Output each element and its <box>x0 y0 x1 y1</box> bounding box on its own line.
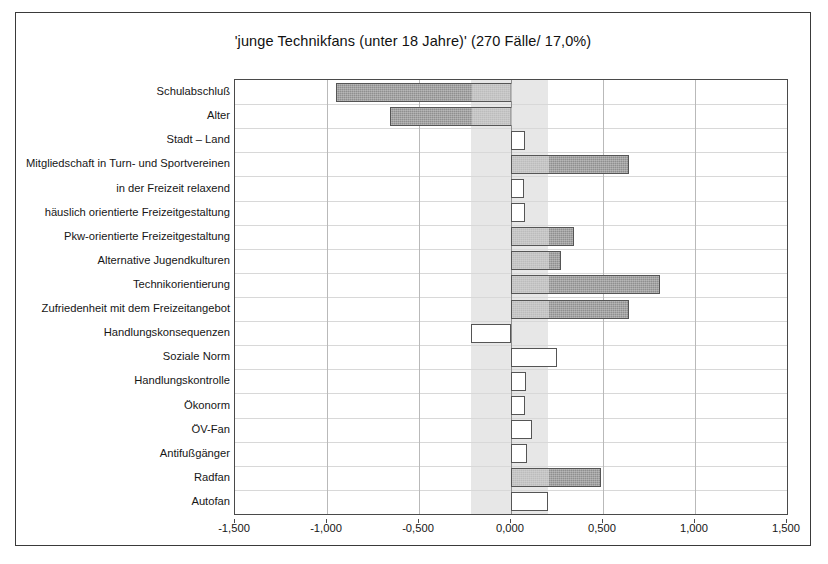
y-axis-tick-label: Stadt – Land <box>20 133 230 145</box>
x-axis-tick-label: -1,500 <box>218 522 250 534</box>
y-axis-tick-label: ÖV-Fan <box>20 423 230 435</box>
y-axis-tick-label: Handlungskontrolle <box>20 374 230 386</box>
y-axis-tick-label: Soziale Norm <box>20 350 230 362</box>
y-axis-tick-label: Alternative Jugendkulturen <box>20 254 230 266</box>
bar-band-overlay <box>512 228 549 245</box>
y-axis-tick-label: in der Freizeit relaxend <box>20 182 230 194</box>
bar <box>511 396 525 415</box>
gridline-vertical <box>603 80 604 514</box>
bar-band-overlay <box>512 301 549 318</box>
gridline-vertical <box>419 80 420 514</box>
y-axis-tick-label: Pkw-orientierte Freizeitgestaltung <box>20 230 230 242</box>
bar <box>511 468 601 487</box>
chart-title: 'junge Technikfans (unter 18 Jahre)' (27… <box>16 33 810 49</box>
bar-band-overlay <box>512 469 549 486</box>
bar <box>511 203 525 222</box>
bar <box>511 179 524 198</box>
bar <box>390 107 511 126</box>
y-axis-tick-label: Technikorientierung <box>20 278 230 290</box>
chart-figure: 'junge Technikfans (unter 18 Jahre)' (27… <box>15 12 811 546</box>
bar <box>471 324 511 343</box>
y-axis-tick-label: Autofan <box>20 495 230 507</box>
x-axis-tick-label: -0,500 <box>402 522 434 534</box>
bar <box>511 131 525 150</box>
bar <box>511 348 557 367</box>
plot-area <box>234 79 788 515</box>
bar <box>511 372 526 391</box>
y-axis-tick-label: Ökonorm <box>20 399 230 411</box>
y-axis-tick-label: Alter <box>20 109 230 121</box>
x-axis-tick-label: 0,500 <box>588 522 616 534</box>
x-axis-tick-label: 0,000 <box>496 522 524 534</box>
bar <box>511 492 548 511</box>
bar <box>511 251 561 270</box>
gridline-vertical <box>327 80 328 514</box>
bar <box>511 227 574 246</box>
x-axis-tick-label: -1,000 <box>310 522 342 534</box>
y-axis-tick-label: Zufriedenheit mit dem Freizeitangebot <box>20 302 230 314</box>
bar <box>511 275 660 294</box>
bar-band-overlay <box>512 156 549 173</box>
x-axis-tick-label: 1,500 <box>772 522 800 534</box>
x-axis-labels: -1,500-1,000-0,5000,0000,5001,0001,500 <box>234 519 788 543</box>
bar <box>511 155 629 174</box>
y-axis-tick-label: Handlungskonsequenzen <box>20 326 230 338</box>
bar-band-overlay <box>512 276 549 293</box>
gridline-vertical <box>695 80 696 514</box>
y-axis-tick-label: Radfan <box>20 471 230 483</box>
bar <box>511 444 527 463</box>
y-axis-tick-label: Antifußgänger <box>20 447 230 459</box>
y-axis-tick-label: Mitgliedschaft in Turn- und Sportvereine… <box>20 157 230 169</box>
bar-band-overlay <box>512 252 549 269</box>
y-axis-labels: SchulabschlußAlterStadt – LandMitgliedsc… <box>18 79 230 515</box>
bar-band-overlay <box>472 84 512 101</box>
x-axis-tick-label: 1,000 <box>680 522 708 534</box>
y-axis-tick-label: Schulabschluß <box>20 85 230 97</box>
y-axis-tick-label: häuslich orientierte Freizeitgestaltung <box>20 206 230 218</box>
bar <box>511 300 629 319</box>
bar-band-overlay <box>472 108 512 125</box>
bar <box>511 420 532 439</box>
bar <box>336 83 511 102</box>
